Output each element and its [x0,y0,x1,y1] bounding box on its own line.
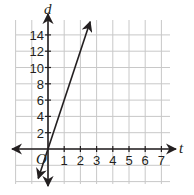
y-tick-label: 8 [37,77,44,92]
y-tick-label: 2 [37,126,44,141]
origin-label: O [36,151,47,167]
x-tick-label: 2 [77,153,84,168]
y-tick-label: 4 [37,109,44,124]
y-tick-label: 12 [30,44,44,59]
x-tick-label: 3 [93,153,100,168]
x-tick-label: 6 [142,153,149,168]
x-tick-label: 1 [61,153,68,168]
y-axis-label: d [44,1,52,17]
y-tick-label: 14 [30,28,44,43]
x-axis-label: t [179,140,184,156]
axis-ticks [45,35,161,152]
x-tick-label: 5 [125,153,132,168]
x-tick-label: 7 [158,153,165,168]
x-tick-label: 4 [109,153,116,168]
y-tick-label: 6 [37,93,44,108]
y-tick-label: 10 [30,61,44,76]
coordinate-plane: 1234567 2468101214 d t O [0,0,194,195]
